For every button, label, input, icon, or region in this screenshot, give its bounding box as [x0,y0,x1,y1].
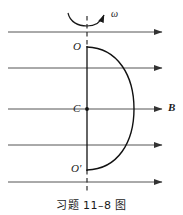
omega-curved-arrow [68,13,104,26]
magnetic-field-lines [8,32,162,182]
figure-root: ω O C O′ B 习题 11–8 图 [0,0,183,215]
point-label-C: C [73,103,80,114]
marked-points [85,107,89,111]
figure-caption: 习题 11–8 图 [0,196,183,212]
point-label-O: O [73,41,81,52]
magnetic-field-label: B [168,102,175,113]
physics-diagram-canvas [0,0,183,215]
angular-velocity-label: ω [111,9,118,19]
rotation-indicator [68,13,104,26]
point-C-dot [85,107,89,111]
point-label-O-prime: O′ [71,163,81,174]
